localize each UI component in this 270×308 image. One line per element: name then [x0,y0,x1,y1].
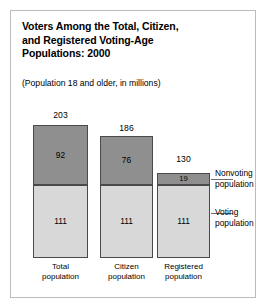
bar-registered-population: 19 111 [157,173,210,258]
bar-total-label-registered-population: 130 [157,155,210,164]
legend-label-nonvoting-line-1: Nonvoting [215,168,270,179]
category-label-total-population: Total population [28,262,93,282]
category-label-citizen-line-2: population [95,272,158,282]
legend-label-voting-line-2: population [215,218,270,229]
bar-segment-nonvoting-registered-population: 19 [157,173,210,185]
bar-segment-nonvoting-total-population: 92 [33,125,88,185]
bar-segment-value-nonvoting-registered: 19 [179,175,187,183]
bar-segment-value-voting-citizen: 111 [120,217,133,225]
category-label-citizen-population: Citizen population [95,262,158,282]
bar-segment-nonvoting-citizen-population: 76 [100,136,153,185]
bar-segment-voting-citizen-population: 111 [100,185,153,258]
bar-segment-value-nonvoting-citizen: 76 [122,156,131,164]
category-label-total-line-1: Total [28,262,93,272]
category-label-total-line-2: population [28,272,93,282]
chart-plot-area: 203 92 111 Total population 186 76 111 C… [0,0,270,308]
category-label-registered-population: Registered population [152,262,215,282]
bar-segment-voting-registered-population: 111 [157,185,210,258]
legend-label-nonvoting: Nonvoting population [215,168,270,189]
bar-total-label-citizen-population: 186 [100,124,153,133]
bar-segment-value-voting-registered: 111 [177,217,190,225]
legend-label-voting: Voting population [215,207,270,228]
bar-citizen-population: 76 111 [100,136,153,258]
bar-segment-voting-total-population: 111 [33,185,88,258]
bar-total-population: 92 111 [33,125,88,258]
bar-segment-value-voting-total: 111 [54,217,67,225]
bar-segment-value-nonvoting-total: 92 [56,151,65,159]
category-label-citizen-line-1: Citizen [95,262,158,272]
legend-label-nonvoting-line-2: population [215,179,270,190]
legend-label-voting-line-1: Voting [215,207,270,218]
bar-total-label-total-population: 203 [33,111,88,120]
category-label-registered-line-1: Registered [152,262,215,272]
category-label-registered-line-2: population [152,272,215,282]
